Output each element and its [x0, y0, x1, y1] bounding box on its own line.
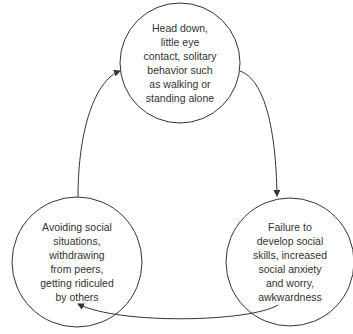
arrow-top-to-right — [240, 71, 277, 196]
arrow-left-to-top — [78, 71, 120, 197]
node-text-top: Head down, little eye contact, solitary … — [120, 3, 240, 123]
node-text-right: Failure to develop social skills, increa… — [226, 198, 353, 326]
node-text-left: Avoiding social situations, withdrawing … — [12, 197, 142, 327]
